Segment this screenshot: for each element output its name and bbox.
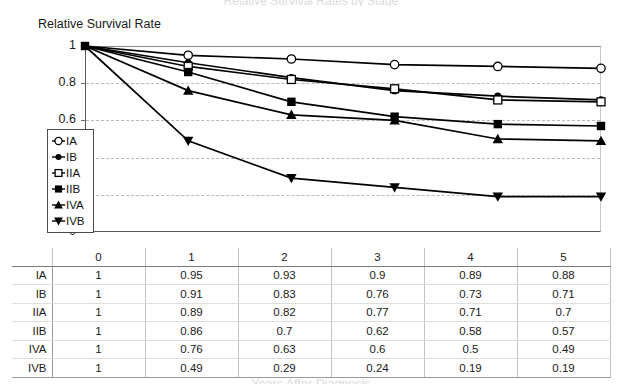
data-table: 012345 IA10.950.930.90.890.88IB10.910.83…	[12, 248, 611, 378]
table-cell: 0.82	[238, 303, 331, 322]
table-cell: 1	[52, 359, 145, 378]
table-cell: 0.89	[424, 266, 517, 285]
table-cell: 0.9	[331, 266, 424, 285]
data-point	[390, 60, 398, 68]
table-cell: 0.63	[238, 340, 331, 359]
legend-item-ia[interactable]: IA	[51, 133, 91, 149]
table-cell: 1	[52, 340, 145, 359]
data-point	[494, 62, 502, 70]
table-col-header: 0	[52, 248, 145, 266]
table-cell: 0.95	[145, 266, 238, 285]
table-cell: 0.6	[331, 340, 424, 359]
data-point	[184, 51, 192, 59]
table-row-label: IIA	[12, 303, 52, 322]
table-col-header: 4	[424, 248, 517, 266]
table-cell: 0.86	[145, 322, 238, 341]
table-cell: 0.19	[424, 359, 517, 378]
legend-item-label: IVA	[66, 197, 84, 213]
table-col-header: 1	[145, 248, 238, 266]
table-cell: 0.49	[145, 359, 238, 378]
table-row-label: IA	[12, 266, 52, 285]
data-point	[287, 98, 295, 106]
series-line	[85, 46, 601, 141]
table-col-header: 5	[517, 248, 610, 266]
chart-region: Relative Survival Rate 00.20.40.60.81 IA…	[0, 14, 622, 246]
table-row: IIB10.860.70.620.580.57	[12, 322, 610, 341]
figure-title-cutoff: Relative Survival Rates by Stage	[0, 0, 622, 6]
data-point	[597, 122, 605, 130]
chart-legend[interactable]: IAIBIIAIIBIVAIVB	[47, 129, 94, 233]
data-point	[391, 85, 399, 93]
filled-square-icon	[51, 181, 66, 197]
table-row-label: IVB	[12, 359, 52, 378]
legend-item-label: IB	[66, 149, 77, 165]
data-point	[597, 64, 605, 72]
series-line	[85, 46, 601, 100]
table-cell: 0.58	[424, 322, 517, 341]
table-cell: 0.7	[517, 303, 610, 322]
table-cell: 0.5	[424, 340, 517, 359]
table-cell: 0.49	[517, 340, 610, 359]
table-cell: 0.76	[145, 340, 238, 359]
table-cell: 1	[52, 266, 145, 285]
table-col-header: 2	[238, 248, 331, 266]
x-axis-title-cutoff: Years After Diagnosis	[0, 377, 622, 384]
series-line	[85, 46, 601, 197]
legend-item-iib[interactable]: IIB	[51, 181, 91, 197]
table-row-label: IVA	[12, 340, 52, 359]
table-corner-cell	[12, 248, 52, 266]
table-row-label: IB	[12, 285, 52, 304]
table-cell: 1	[52, 303, 145, 322]
table-cell: 0.71	[517, 285, 610, 304]
table-cell: 0.93	[238, 266, 331, 285]
table-row-label: IIB	[12, 322, 52, 341]
table-cell: 0.77	[331, 303, 424, 322]
data-point	[287, 55, 295, 63]
legend-item-ib[interactable]: IB	[51, 149, 91, 165]
table-col-header: 3	[331, 248, 424, 266]
legend-item-iva[interactable]: IVA	[51, 197, 91, 213]
data-point	[597, 98, 605, 106]
table-cell: 1	[52, 322, 145, 341]
filled-circle-icon	[51, 149, 66, 165]
data-point	[494, 120, 502, 128]
legend-item-label: IA	[66, 133, 77, 149]
series-ib	[85, 46, 605, 104]
table-cell: 0.83	[238, 285, 331, 304]
legend-item-ivb[interactable]: IVB	[51, 213, 91, 229]
table-cell: 0.73	[424, 285, 517, 304]
series-line	[85, 46, 601, 102]
table-cell: 0.88	[517, 266, 610, 285]
legend-item-iia[interactable]: IIA	[51, 165, 91, 181]
table-body: IA10.950.930.90.890.88IB10.910.830.760.7…	[12, 266, 610, 377]
table-cell: 0.24	[331, 359, 424, 378]
chart-page: Relative Survival Rates by Stage Relativ…	[0, 0, 622, 384]
table-cell: 1	[52, 285, 145, 304]
table-header-row: 012345	[12, 248, 610, 266]
table-row: IVA10.760.630.60.50.49	[12, 340, 610, 359]
table-cell: 0.91	[145, 285, 238, 304]
legend-item-label: IIA	[66, 165, 80, 181]
legend-item-label: IVB	[66, 213, 85, 229]
data-point	[183, 85, 193, 94]
filled-triangle-down-icon	[51, 213, 66, 229]
table-cell: 0.29	[238, 359, 331, 378]
data-table-region: 012345 IA10.950.930.90.890.88IB10.910.83…	[12, 248, 610, 378]
table-cell: 0.57	[517, 322, 610, 341]
data-point	[494, 96, 502, 104]
table-row: IVB10.490.290.240.190.19	[12, 359, 610, 378]
table-cell: 0.7	[238, 322, 331, 341]
table-cell: 0.62	[331, 322, 424, 341]
table-cell: 0.89	[145, 303, 238, 322]
filled-triangle-up-icon	[51, 197, 66, 213]
legend-item-label: IIB	[66, 181, 80, 197]
table-row: IA10.950.930.90.890.88	[12, 266, 610, 285]
table-cell: 0.71	[424, 303, 517, 322]
open-circle-icon	[51, 133, 66, 149]
table-cell: 0.76	[331, 285, 424, 304]
data-point	[287, 75, 295, 83]
open-square-icon	[51, 165, 66, 181]
table-cell: 0.19	[517, 359, 610, 378]
table-row: IB10.910.830.760.730.71	[12, 285, 610, 304]
data-point	[184, 68, 192, 76]
